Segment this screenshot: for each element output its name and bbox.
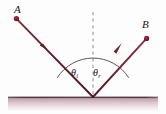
theta-incident-label: θi [71,68,78,78]
point-b-dot [144,36,149,41]
mirror-surface [8,97,158,112]
theta-reflected-label: θr [93,68,100,78]
point-a-label: A [14,4,21,15]
point-b-label: B [142,19,149,30]
incident-ray [16,19,93,97]
surface-fill [8,98,158,112]
theta-reflected-subscript: r [98,72,101,79]
reflected-ray-arrowhead-icon [114,43,122,54]
reflected-ray [93,38,147,97]
surface-top-edge [8,97,158,99]
reflection-diagram: A B θi θr [0,0,166,114]
theta-incident-subscript: i [76,72,78,79]
point-a-dot [14,16,19,21]
